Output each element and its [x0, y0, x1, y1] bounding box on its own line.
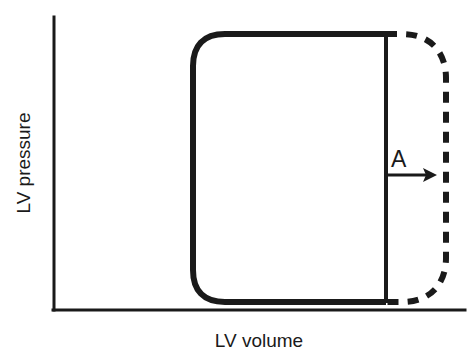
baseline-loop-group	[193, 33, 386, 303]
annotation-label-a: A	[391, 146, 407, 172]
y-axis-label: LV pressure	[13, 112, 34, 213]
x-axis-label: LV volume	[215, 330, 303, 351]
pv-loop-figure: A LV pressure LV volume	[0, 0, 476, 359]
baseline-loop-solid-path	[193, 34, 386, 302]
pv-loop-diagram: A LV pressure LV volume	[0, 0, 476, 359]
